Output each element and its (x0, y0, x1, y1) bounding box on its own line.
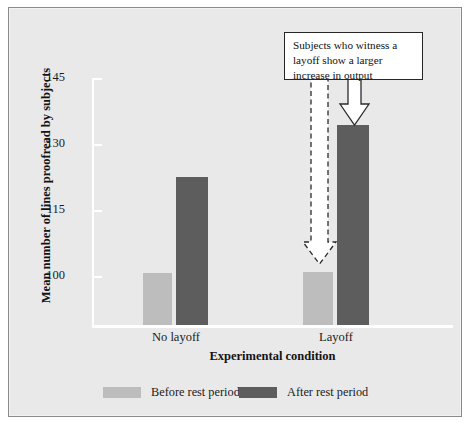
chart-frame: 145 130 115 100 Mean number of lines pro… (8, 7, 462, 417)
legend-swatch-after-icon (239, 387, 277, 398)
figure: 145 130 115 100 Mean number of lines pro… (0, 0, 472, 426)
bar-no-layoff-before (143, 273, 172, 325)
y-axis-line (92, 78, 94, 327)
legend: Before rest period After rest period (9, 382, 463, 404)
annotation-arrow-before-bar (301, 74, 341, 274)
y-tick-mark-130 (94, 144, 102, 146)
annotation-arrow-after-bar (337, 74, 373, 130)
legend-item-after: After rest period (239, 382, 368, 402)
y-axis-title: Mean number of lines proofread by subjec… (39, 61, 54, 311)
x-group-label-no-layoff: No layoff (116, 330, 236, 345)
y-tick-mark-115 (94, 210, 102, 212)
x-group-label-layoff: Layoff (276, 330, 396, 345)
callout-line-2: layoff show a larger (293, 53, 415, 68)
y-tick-mark-145 (94, 78, 102, 80)
callout-line-1: Subjects who witness a (293, 38, 415, 53)
callout-line-3: increase in output (293, 68, 415, 83)
bar-no-layoff-after (176, 177, 208, 325)
y-tick-mark-100 (94, 276, 102, 278)
bar-layoff-after (337, 125, 369, 325)
x-axis-line (92, 325, 453, 328)
x-axis-title: Experimental condition (92, 349, 453, 364)
bar-layoff-before (303, 272, 333, 325)
legend-swatch-before-icon (103, 387, 141, 398)
legend-item-before: Before rest period (103, 382, 240, 402)
legend-label-before: Before rest period (151, 385, 240, 400)
plot-area: 145 130 115 100 Mean number of lines pro… (9, 8, 463, 418)
legend-label-after: After rest period (287, 385, 368, 400)
annotation-callout: Subjects who witness a layoff show a lar… (284, 32, 423, 80)
